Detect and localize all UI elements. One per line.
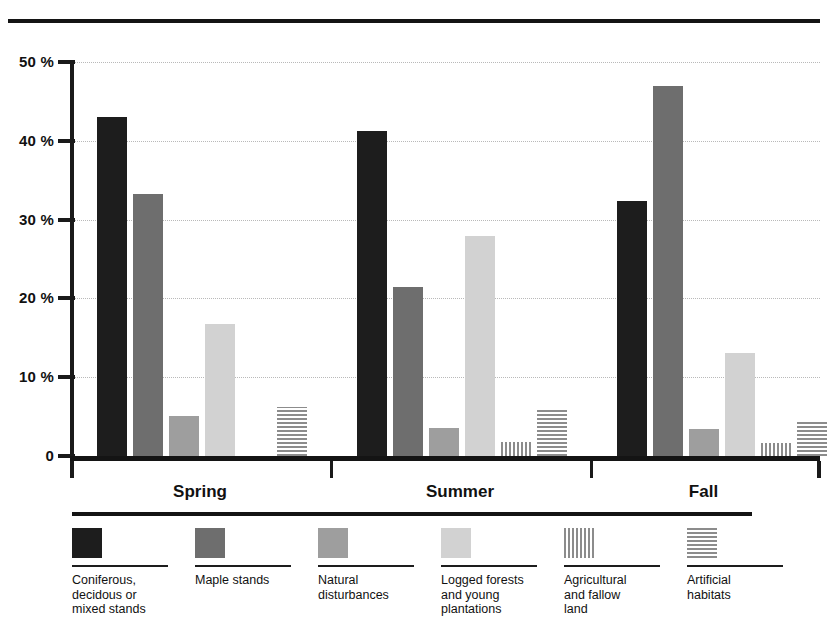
bar (133, 194, 163, 456)
bar (653, 86, 683, 456)
legend-label: Agricultural and fallow land (564, 573, 682, 617)
legend-item[interactable]: Maple stands (195, 528, 313, 588)
legend-item[interactable]: Agricultural and fallow land (564, 528, 682, 617)
legend-underline (318, 565, 414, 567)
legend-swatch-icon (564, 528, 594, 558)
x-axis-tick (590, 461, 593, 478)
plot-area: 010 %20 %30 %40 %50 % SpringSummerFall (0, 50, 825, 470)
legend-label: Natural disturbances (318, 573, 436, 602)
legend-swatch-icon (687, 528, 717, 558)
bar (169, 416, 199, 456)
bar (205, 324, 235, 456)
x-axis-group-label-summer: Summer (330, 482, 590, 502)
bar (725, 353, 755, 456)
bar (429, 428, 459, 456)
chart-legend: Coniferous, decidous or mixed standsMapl… (0, 512, 825, 634)
legend-underline (195, 565, 291, 567)
bar (537, 408, 567, 456)
legend-swatch-icon (318, 528, 348, 558)
x-axis-group-label-spring: Spring (70, 482, 330, 502)
bar (277, 407, 307, 456)
bar (465, 236, 495, 456)
legend-item[interactable]: Natural disturbances (318, 528, 436, 602)
legend-item[interactable]: Logged forests and young plantations (441, 528, 559, 617)
bar (393, 287, 423, 456)
bar (689, 429, 719, 456)
legend-swatch-icon (441, 528, 471, 558)
legend-label: Maple stands (195, 573, 313, 588)
legend-swatch-icon (195, 528, 225, 558)
bar (357, 131, 387, 456)
x-axis-tick (817, 461, 821, 478)
bar (617, 201, 647, 456)
bar (97, 117, 127, 456)
x-axis-group-label-fall: Fall (590, 482, 817, 502)
legend-label: Coniferous, decidous or mixed stands (72, 573, 190, 617)
bars-layer (0, 50, 825, 456)
x-axis-line (70, 456, 820, 461)
x-axis-tick (70, 461, 74, 478)
legend-underline (564, 565, 660, 567)
legend-underline (441, 565, 537, 567)
legend-item[interactable]: Artificial habitats (687, 528, 805, 602)
legend-divider-rule (72, 512, 752, 516)
top-divider-rule (8, 19, 820, 23)
legend-label: Logged forests and young plantations (441, 573, 559, 617)
bar (761, 443, 791, 456)
bar (501, 442, 531, 456)
x-axis-tick (330, 461, 333, 478)
legend-swatch-icon (72, 528, 102, 558)
legend-underline (72, 565, 168, 567)
legend-label: Artificial habitats (687, 573, 805, 602)
legend-underline (687, 565, 783, 567)
legend-item[interactable]: Coniferous, decidous or mixed stands (72, 528, 190, 617)
bar (797, 420, 827, 456)
